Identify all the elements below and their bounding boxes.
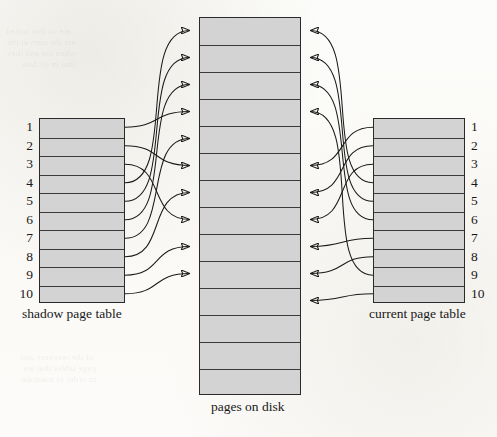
current-page-table-index-10: 10 bbox=[471, 286, 493, 302]
arrow-shadow-4-to-disk-1 bbox=[125, 31, 190, 183]
shadow-page-table-index-3: 3 bbox=[11, 156, 33, 172]
arrow-current-6-to-disk-3 bbox=[311, 85, 374, 220]
shadow-page-table-separator bbox=[40, 249, 124, 250]
pages-on-disk-separator bbox=[200, 153, 300, 154]
current-page-table-caption: current page table bbox=[369, 306, 466, 322]
shadow-page-table-separator bbox=[40, 193, 124, 194]
arrow-shadow-7-to-disk-5 bbox=[125, 139, 190, 239]
current-page-table-separator bbox=[374, 267, 464, 268]
pages-on-disk-separator bbox=[200, 342, 300, 343]
arrow-current-8-to-disk-10 bbox=[311, 257, 374, 274]
shadow-page-table-index-9: 9 bbox=[11, 267, 33, 283]
shadow-page-table-index-2: 2 bbox=[11, 138, 33, 154]
current-page-table-separator bbox=[374, 286, 464, 287]
arrow-current-5-to-disk-2 bbox=[311, 58, 374, 202]
pages-on-disk-separator bbox=[200, 315, 300, 316]
current-page-table-separator bbox=[374, 193, 464, 194]
current-to-disk-arrows bbox=[311, 31, 374, 301]
pages-on-disk-separator bbox=[200, 45, 300, 46]
arrow-shadow-8-to-disk-7 bbox=[125, 193, 190, 257]
current-page-table-index-7: 7 bbox=[471, 230, 493, 246]
shadow-page-table-index-8: 8 bbox=[11, 249, 33, 265]
arrow-shadow-5-to-disk-2 bbox=[125, 58, 190, 202]
current-page-table-separator bbox=[374, 175, 464, 176]
arrow-shadow-2-to-disk-6 bbox=[125, 146, 190, 166]
shadow-page-table-separator bbox=[40, 212, 124, 213]
shadow-page-table-separator bbox=[40, 138, 124, 139]
shadow-page-table-separator bbox=[40, 230, 124, 231]
arrow-current-4-to-disk-1 bbox=[311, 31, 374, 183]
shadow-page-table-separator bbox=[40, 156, 124, 157]
arrow-current-7-to-disk-9 bbox=[311, 238, 374, 246]
pages-on-disk-separator bbox=[200, 126, 300, 127]
arrow-shadow-3-to-disk-8 bbox=[125, 164, 190, 219]
current-page-table-separator bbox=[374, 138, 464, 139]
arrow-shadow-6-to-disk-3 bbox=[125, 85, 190, 220]
pages-on-disk-separator bbox=[200, 369, 300, 370]
arrow-current-2-to-disk-7 bbox=[311, 146, 374, 193]
pages-on-disk-separator bbox=[200, 72, 300, 73]
current-page-table-index-2: 2 bbox=[471, 138, 493, 154]
shadow-page-table-index-10: 10 bbox=[11, 286, 33, 302]
current-page-table-index-8: 8 bbox=[471, 249, 493, 265]
shadow-page-table-separator bbox=[40, 175, 124, 176]
arrow-shadow-10-to-disk-10 bbox=[125, 274, 190, 294]
shadow-page-table-index-6: 6 bbox=[11, 212, 33, 228]
shadow-page-table-index-4: 4 bbox=[11, 175, 33, 191]
pages-on-disk-separator bbox=[200, 99, 300, 100]
shadow-page-table-separator bbox=[40, 286, 124, 287]
arrow-shadow-9-to-disk-9 bbox=[125, 247, 190, 276]
current-page-table-box bbox=[373, 118, 465, 303]
current-page-table-separator bbox=[374, 156, 464, 157]
shadow-page-table-index-7: 7 bbox=[11, 230, 33, 246]
current-page-table-index-3: 3 bbox=[471, 156, 493, 172]
shadow-page-table-caption: shadow page table bbox=[22, 306, 122, 322]
pages-on-disk-separator bbox=[200, 261, 300, 262]
arrow-shadow-1-to-disk-4 bbox=[125, 112, 190, 128]
shadow-page-table-box bbox=[39, 118, 125, 303]
pages-on-disk-separator bbox=[200, 207, 300, 208]
current-page-table-separator bbox=[374, 249, 464, 250]
current-page-table-separator bbox=[374, 212, 464, 213]
current-page-table-index-4: 4 bbox=[471, 175, 493, 191]
current-page-table-index-1: 1 bbox=[471, 119, 493, 135]
shadow-to-disk-arrows bbox=[125, 31, 190, 294]
shadow-paging-figure: are so that sorted are the ones at the w… bbox=[0, 0, 497, 437]
current-page-table-separator bbox=[374, 230, 464, 231]
pages-on-disk-caption: pages on disk bbox=[211, 399, 285, 415]
pages-on-disk-separator bbox=[200, 288, 300, 289]
arrow-current-10-to-disk-11 bbox=[311, 294, 374, 301]
shadow-page-table-separator bbox=[40, 267, 124, 268]
pages-on-disk-box bbox=[199, 17, 301, 395]
current-page-table-index-9: 9 bbox=[471, 267, 493, 283]
pages-on-disk-separator bbox=[200, 234, 300, 235]
current-page-table-index-6: 6 bbox=[471, 212, 493, 228]
arrow-current-9-to-disk-4 bbox=[311, 112, 374, 276]
current-page-table-index-5: 5 bbox=[471, 193, 493, 209]
shadow-page-table-index-5: 5 bbox=[11, 193, 33, 209]
arrow-current-1-to-disk-6 bbox=[311, 127, 374, 165]
pages-on-disk-separator bbox=[200, 180, 300, 181]
bleed-through-text-top: are so that sorted are the ones at the w… bbox=[6, 26, 78, 70]
bleed-through-text-bottom: of the recovery and page tables that are… bbox=[20, 352, 98, 385]
arrow-current-3-to-disk-8 bbox=[311, 164, 374, 219]
shadow-page-table-index-1: 1 bbox=[11, 119, 33, 135]
